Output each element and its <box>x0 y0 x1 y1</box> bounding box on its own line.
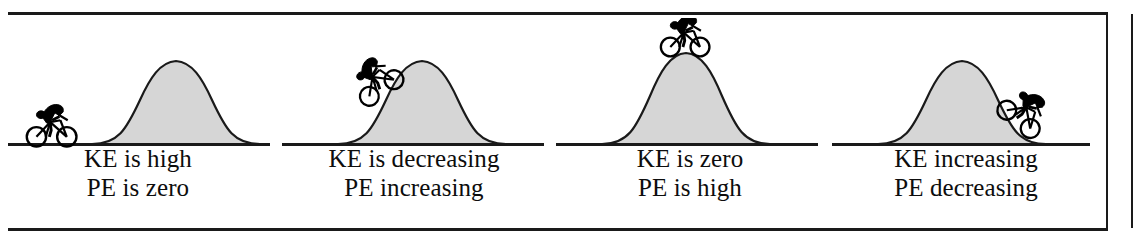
panel-3-scene <box>552 18 828 150</box>
panel-1-scene <box>0 18 276 150</box>
panel-2-caption-line2: PE increasing <box>276 173 552 202</box>
panel-1-caption-line2: PE is zero <box>0 173 276 202</box>
panel-3-caption-line2: PE is high <box>552 173 828 202</box>
panel-4-scene <box>828 18 1104 150</box>
panel-4-caption: KE increasing PE decreasing <box>828 144 1104 202</box>
figure-top-rule <box>8 12 1108 15</box>
panel-1-caption: KE is high PE is zero <box>0 144 276 202</box>
figure-right-outer-rule <box>1131 14 1133 228</box>
panel-row: KE is high PE is zero <box>0 18 1106 224</box>
energy-hill-figure: KE is high PE is zero <box>0 0 1140 246</box>
panel-1: KE is high PE is zero <box>0 18 276 224</box>
panel-2-caption: KE is decreasing PE increasing <box>276 144 552 202</box>
figure-bottom-rule <box>8 228 1108 231</box>
panel-2-caption-line1: KE is decreasing <box>276 144 552 173</box>
panel-2: KE is decreasing PE increasing <box>276 18 552 224</box>
panel-3-caption: KE is zero PE is high <box>552 144 828 202</box>
figure-right-inner-rule <box>1106 12 1108 231</box>
panel-3-caption-line1: KE is zero <box>552 144 828 173</box>
panel-4-caption-line2: PE decreasing <box>828 173 1104 202</box>
hill-bell-curve <box>92 61 260 144</box>
cyclist-on-flat-ground <box>27 104 77 146</box>
panel-3: KE is zero PE is high <box>552 18 828 224</box>
panel-4-caption-line1: KE increasing <box>828 144 1104 173</box>
panel-1-caption-line1: KE is high <box>0 144 276 173</box>
hill-bell-curve <box>602 53 770 144</box>
panel-2-scene <box>276 18 552 150</box>
cyclist-at-summit <box>661 18 710 56</box>
panel-4: KE increasing PE decreasing <box>828 18 1104 224</box>
